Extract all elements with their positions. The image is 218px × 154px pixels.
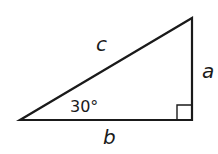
vertical-leg-label: a (202, 61, 214, 81)
right-triangle-diagram: c a b 30° (0, 0, 218, 154)
horizontal-leg-label: b (103, 127, 116, 147)
right-angle-marker (177, 105, 192, 120)
hypotenuse-label: c (96, 34, 107, 54)
angle-label: 30° (70, 99, 98, 115)
